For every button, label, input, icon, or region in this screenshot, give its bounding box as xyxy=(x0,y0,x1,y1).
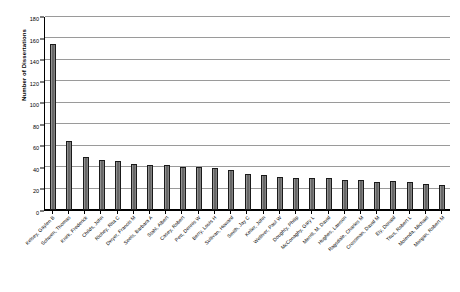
x-label-slot: Morgan, Robert M xyxy=(434,214,450,292)
bar-slot xyxy=(175,17,191,210)
dissertations-bar-chart: Number of Dissertations 0204060801001201… xyxy=(0,0,460,292)
bar-slot xyxy=(61,17,77,210)
bar[interactable] xyxy=(407,182,413,210)
bar[interactable] xyxy=(50,44,56,210)
bar-slot xyxy=(110,17,126,210)
bar-slot xyxy=(77,17,93,210)
bar-slot xyxy=(239,17,255,210)
bar-slot xyxy=(158,17,174,210)
bar[interactable] xyxy=(293,178,299,210)
bar[interactable] xyxy=(423,184,429,210)
bar[interactable] xyxy=(115,161,121,210)
plot-area xyxy=(44,17,450,211)
bar[interactable] xyxy=(147,165,153,210)
bar-series xyxy=(45,17,450,210)
bar[interactable] xyxy=(439,185,445,210)
bar-slot xyxy=(288,17,304,210)
bar-slot xyxy=(256,17,272,210)
bar[interactable] xyxy=(196,167,202,210)
bar[interactable] xyxy=(83,157,89,210)
bar[interactable] xyxy=(212,168,218,210)
bar-slot xyxy=(337,17,353,210)
bar-slot xyxy=(126,17,142,210)
bar-slot xyxy=(353,17,369,210)
bar[interactable] xyxy=(245,174,251,210)
bar-slot xyxy=(369,17,385,210)
bar-slot xyxy=(191,17,207,210)
bar[interactable] xyxy=(99,160,105,210)
bar-slot xyxy=(385,17,401,210)
bar[interactable] xyxy=(374,182,380,210)
bar-slot xyxy=(401,17,417,210)
bar[interactable] xyxy=(164,165,170,210)
bar[interactable] xyxy=(131,164,137,210)
bar-slot xyxy=(142,17,158,210)
bar-slot xyxy=(304,17,320,210)
bar-slot xyxy=(418,17,434,210)
bar[interactable] xyxy=(390,181,396,210)
bar-slot xyxy=(434,17,450,210)
y-axis-tick-labels: 020406080100120140160180 xyxy=(0,17,44,211)
bar[interactable] xyxy=(180,167,186,210)
bar-slot xyxy=(45,17,61,210)
bar-slot xyxy=(207,17,223,210)
bar-slot xyxy=(223,17,239,210)
bar[interactable] xyxy=(66,141,72,210)
bar[interactable] xyxy=(342,180,348,210)
bar-slot xyxy=(320,17,336,210)
x-axis-tick-labels: Kelsey, Gaylen BSchwen, ThomasKnirk, Fre… xyxy=(44,214,450,292)
bar[interactable] xyxy=(358,180,364,210)
bar[interactable] xyxy=(277,177,283,210)
bar[interactable] xyxy=(309,178,315,210)
bar[interactable] xyxy=(228,170,234,210)
bar-slot xyxy=(94,17,110,210)
bar[interactable] xyxy=(326,178,332,210)
bar-slot xyxy=(272,17,288,210)
bar[interactable] xyxy=(261,175,267,210)
